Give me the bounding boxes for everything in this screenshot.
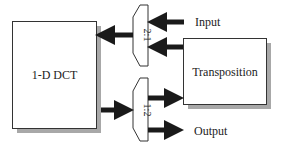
input-label: Input: [195, 15, 221, 29]
demux-1to2-label: 1:2: [142, 104, 153, 117]
output-label: Output: [194, 124, 228, 138]
dct-block: 1-D DCT: [13, 22, 102, 134]
dct-label: 1-D DCT: [32, 68, 78, 82]
mux-2to1: 2:1: [133, 5, 153, 66]
diagram-canvas: 1-D DCT Transposition 2:1 1:2 Input Outp…: [0, 0, 282, 155]
mux-2to1-label: 2:1: [142, 29, 153, 42]
transposition-label: Transposition: [192, 65, 258, 79]
transposition-block: Transposition: [184, 39, 272, 110]
